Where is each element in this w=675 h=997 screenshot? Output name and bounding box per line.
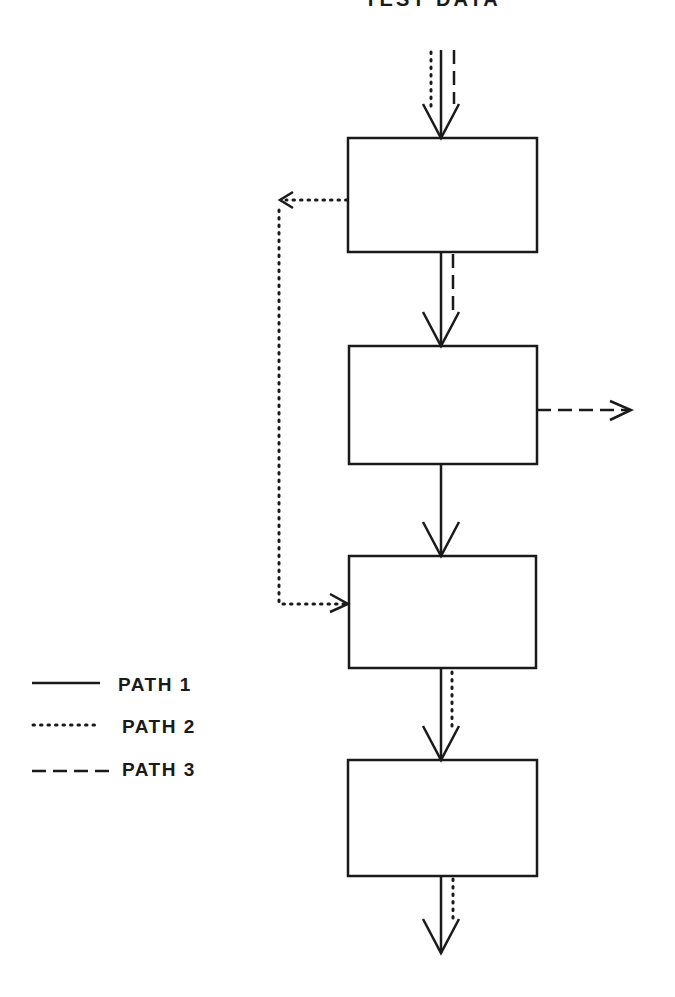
legend-label-path2: PATH 2 <box>122 716 196 738</box>
arrow-block2-to-block3 <box>423 464 459 556</box>
output-arrow <box>423 876 459 953</box>
path3-exit-arrow <box>537 401 631 420</box>
legend <box>32 683 112 771</box>
legend-label-path1: PATH 1 <box>118 674 192 696</box>
arrow-block1-to-block2 <box>423 252 459 346</box>
block-3 <box>349 556 536 668</box>
path2-bypass-loop <box>279 192 348 612</box>
arrow-block3-to-block4 <box>423 668 459 760</box>
flow-diagram: .box { fill: none; stroke: #1a1a1a; stro… <box>0 0 675 997</box>
block-2 <box>349 346 537 464</box>
input-arrow <box>423 50 459 138</box>
legend-label-path3: PATH 3 <box>122 759 196 781</box>
block-1 <box>348 138 537 252</box>
block-4 <box>348 760 537 876</box>
